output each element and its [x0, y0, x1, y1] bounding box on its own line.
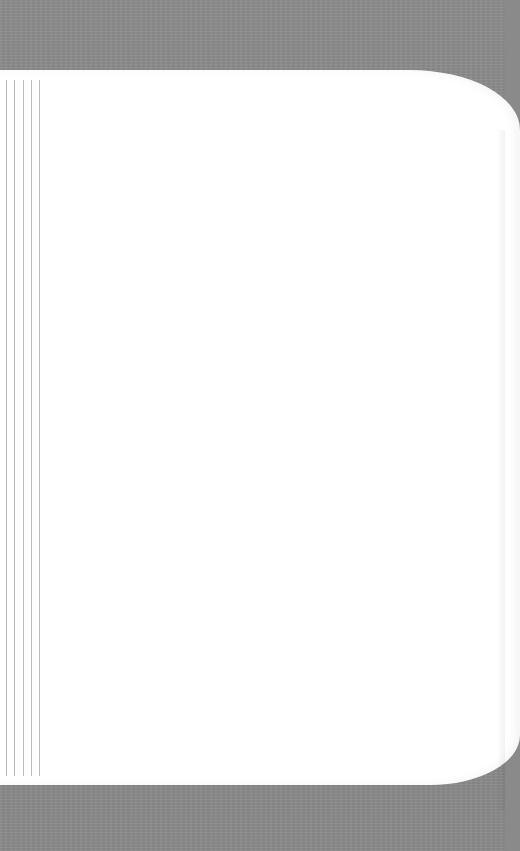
blank-page — [0, 70, 520, 785]
margin-line — [14, 80, 15, 776]
margin-line — [39, 80, 40, 776]
page-edge-shadow — [497, 130, 505, 810]
margin-line — [23, 80, 24, 776]
margin-line — [6, 80, 7, 776]
margin-line — [31, 80, 32, 776]
